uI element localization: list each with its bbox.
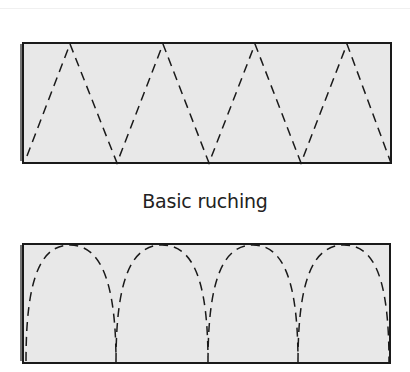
diagram-caption: Basic ruching [0, 190, 410, 212]
ruching-diagram [0, 0, 410, 372]
zigzag-panel [21, 43, 391, 163]
fabric-rectangle-bottom [23, 244, 390, 363]
arch-panel [21, 244, 390, 363]
fabric-rectangle-top [23, 43, 391, 163]
